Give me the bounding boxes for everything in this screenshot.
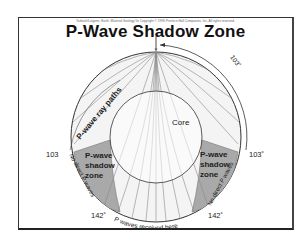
angle-left-103: 103: [46, 150, 59, 159]
angle-left-142: 142˚: [91, 211, 106, 220]
core-outline: [110, 91, 202, 183]
arc-arrowhead: [160, 43, 165, 47]
angle-top-103: 103˚: [229, 54, 242, 69]
angle-right-142: 142˚: [208, 211, 223, 220]
shadow-left-line2: shadow: [85, 161, 116, 170]
angle-right-103: 103˚: [249, 150, 264, 159]
shadow-right-line1: P-wave: [200, 150, 228, 159]
shadow-right-line3: zone: [200, 170, 219, 179]
shadow-left-line1: P-wave: [85, 151, 113, 160]
core-label: Core: [172, 118, 190, 127]
shadow-zone-diagram: P-wave ray paths Core P-wave shadow zone…: [0, 0, 307, 243]
